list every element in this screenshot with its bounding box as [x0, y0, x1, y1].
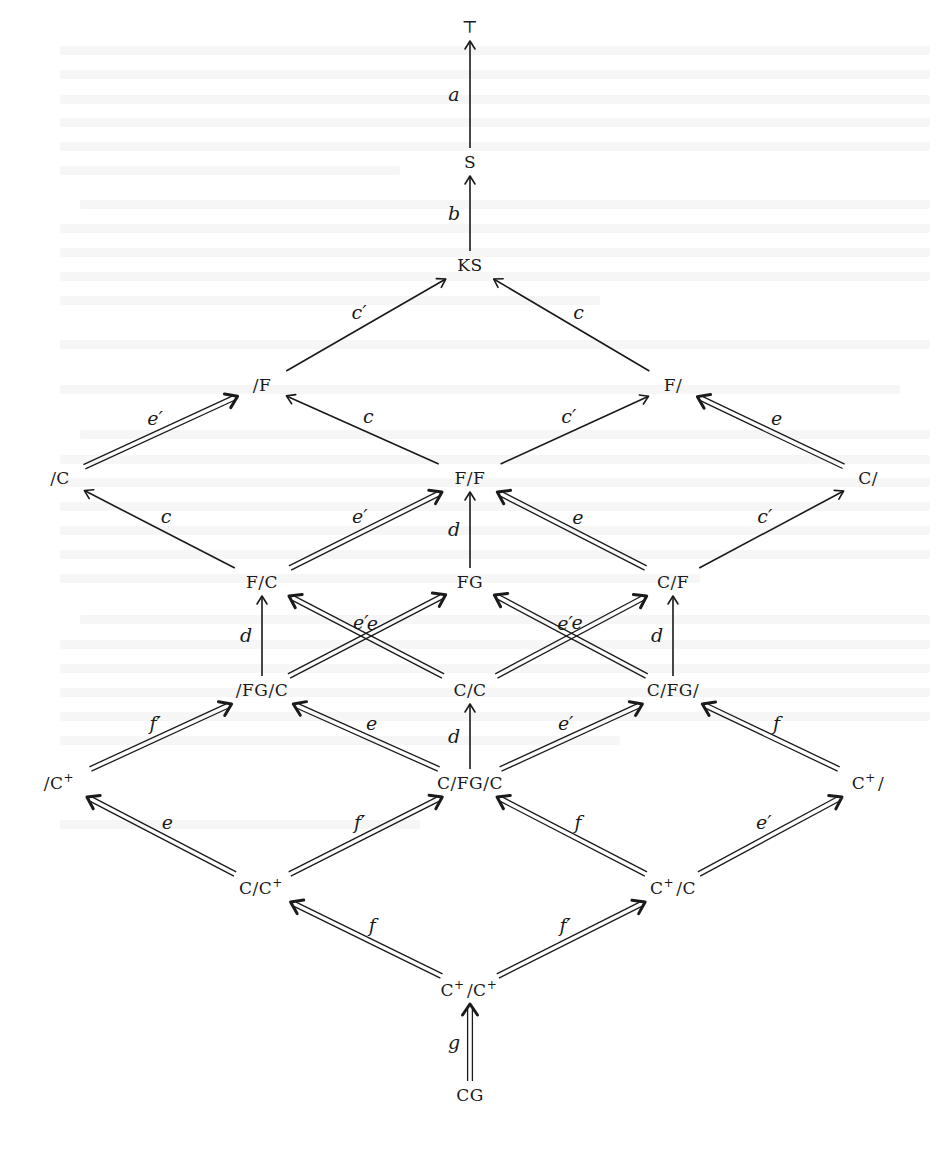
edge-S-to-top	[465, 41, 475, 148]
diagram-nodes: ⊤SKS/FF//CF/FC/F/CFGC/F/FG/CC/CC/FG//C+ …	[44, 17, 885, 1105]
double-arrowhead-icon	[291, 900, 304, 913]
node-_F: /F	[253, 375, 272, 395]
node-S: S	[464, 152, 476, 172]
edge-F_C-to-F_F	[289, 490, 442, 570]
edge-label: a	[448, 83, 459, 105]
double-arrowhead-icon	[289, 594, 302, 607]
edge-Cp_C-to-C_FG_C	[497, 795, 647, 876]
double-arrowhead-icon	[432, 593, 445, 606]
edge-label: e′	[557, 612, 573, 634]
edge-label: e	[162, 811, 173, 833]
node-F_: F/	[664, 375, 683, 395]
node-C_C: C/C	[453, 680, 486, 700]
node-FG: FG	[457, 572, 483, 592]
edge-C_Cp-to-C_FG_C	[289, 795, 443, 876]
edge-C_FG_-to-C_F	[668, 596, 678, 676]
edge-label: g	[448, 1031, 460, 1053]
edge-label: c′	[561, 405, 577, 427]
edge-C_Cp-to-_Cp	[87, 795, 236, 876]
edge-C_FG_-to-FG	[494, 594, 647, 679]
edge-label: c	[573, 301, 584, 323]
edge-FG-to-F_F	[465, 492, 475, 568]
edge-label: e	[771, 407, 782, 429]
double-arrowhead-icon	[218, 702, 231, 716]
double-arrowhead-icon	[429, 490, 442, 503]
double-arrowhead-icon	[494, 594, 507, 607]
edge-C_-to-F_	[697, 395, 844, 469]
node-Cp_: C+ /	[852, 771, 885, 793]
edge-C_F-to-C_	[699, 490, 843, 568]
edge-label: d	[448, 725, 460, 747]
diagram-edge-labels: abc′ccc′e′ece′dec′dee′ee′ddf′ee′fef′fe′f…	[147, 83, 783, 1053]
edge-_C-to-_F	[83, 394, 237, 469]
edge-label: e′	[558, 712, 574, 734]
edge-label: c	[363, 405, 374, 427]
double-arrowhead-icon	[224, 394, 237, 408]
edge-label: f′	[147, 712, 161, 734]
double-arrowhead-icon	[463, 1004, 478, 1015]
edge-label: f′	[352, 811, 366, 833]
edge-label: e	[571, 611, 582, 633]
node-_C: /C	[50, 468, 70, 488]
edge-label: e′	[353, 611, 369, 633]
node-KS: KS	[457, 255, 482, 275]
edge-Cp_Cp-to-C_Cp	[291, 900, 443, 978]
edge-label: f	[367, 914, 379, 936]
lattice-diagram: abc′ccc′e′ece′dec′dee′ee′ddf′ee′fef′fe′f…	[0, 0, 944, 1153]
node-_Cp: /C+	[44, 771, 77, 793]
edge-_FG_C-to-F_C	[257, 596, 267, 676]
edge-label: f′	[558, 914, 572, 936]
double-arrowhead-icon	[497, 795, 510, 808]
edge-Cp_C-to-Cp_	[698, 796, 842, 877]
node-C_FG_C: C/FG/C	[437, 773, 503, 793]
node-F_F: F/F	[455, 468, 486, 488]
edge-label: e	[366, 712, 377, 734]
edge-label: c′	[352, 301, 368, 323]
edge-C_F-to-F_F	[497, 490, 646, 570]
node-top: ⊤	[462, 17, 479, 37]
edge-label: f	[771, 712, 783, 734]
node-Cp_C: C+ /C	[650, 876, 696, 898]
double-arrowhead-icon	[429, 795, 442, 808]
edge-label: e	[572, 506, 583, 528]
edge-label: d	[651, 624, 663, 646]
edge-label: d	[448, 518, 460, 540]
edge-C_C-to-C_F	[495, 595, 646, 679]
edge-F_C-to-_C	[84, 490, 234, 568]
edge-label: e′	[352, 505, 368, 527]
double-arrowhead-icon	[829, 796, 842, 809]
node-Cp_Cp: C+ /C+	[441, 978, 500, 1000]
edge-label: f	[572, 811, 584, 833]
node-C_FG_: C/FG/	[647, 680, 699, 700]
edge-label: e′	[147, 407, 163, 429]
node-C_Cp: C/C+	[239, 876, 285, 898]
double-arrowhead-icon	[632, 900, 645, 913]
edge-_F-to-KS	[286, 279, 445, 371]
double-arrowhead-icon	[702, 702, 715, 716]
double-arrowhead-icon	[697, 395, 710, 409]
edge-Cp_-to-C_FG_	[702, 702, 839, 771]
node-F_C: F/C	[246, 572, 278, 592]
edge-label: c	[161, 505, 172, 527]
edge-C_FG_C-to-C_C	[465, 704, 475, 769]
node-C_: C/	[858, 468, 878, 488]
node-C_F: C/F	[657, 572, 689, 592]
edge-Cp_Cp-to-Cp_C	[497, 900, 645, 978]
edge-C_C-to-F_C	[289, 594, 444, 678]
double-arrowhead-icon	[629, 702, 642, 716]
double-arrowhead-icon	[293, 702, 306, 716]
edge-F_-to-KS	[494, 279, 650, 371]
diagram-edges	[83, 41, 844, 1081]
node-CG: CG	[456, 1085, 484, 1105]
double-arrowhead-icon	[87, 795, 100, 808]
edge-label: b	[448, 202, 460, 224]
double-arrowhead-icon	[497, 490, 510, 503]
edge-label: d	[240, 624, 252, 646]
edge-label: c′	[757, 505, 773, 527]
node-_FG_C: /FG/C	[236, 680, 288, 700]
edge-KS-to-S	[465, 176, 475, 251]
double-arrowhead-icon	[633, 595, 646, 608]
edge-_FG_C-to-FG	[288, 593, 446, 678]
edge-CG-to-Cp_Cp	[463, 1004, 478, 1081]
edge-label: e′	[756, 811, 772, 833]
